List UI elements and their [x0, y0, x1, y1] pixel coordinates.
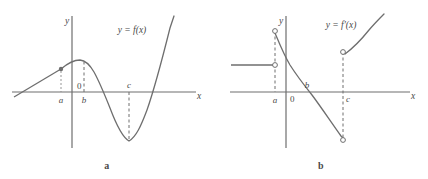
panel-a: y x 0 a b c y = f(x) a — [0, 0, 214, 179]
open-circle-c-upper — [341, 50, 346, 55]
tick-label-a: a — [273, 95, 278, 105]
tick-label-c: c — [127, 80, 131, 90]
open-circle-c-lower — [341, 138, 346, 143]
tangent-line-at-a — [14, 69, 61, 97]
x-axis-label: x — [410, 91, 416, 101]
panel-a-plot: y x 0 a b c y = f(x) — [0, 0, 214, 179]
y-axis-label: y — [64, 16, 70, 26]
curve-label-f-prime: y = f'(x) — [325, 20, 357, 31]
x-axis-label: x — [196, 91, 202, 101]
tick-label-a: a — [59, 95, 64, 105]
curve-label-f: y = f(x) — [117, 25, 147, 36]
y-axis-label: y — [278, 16, 284, 26]
figure-root: y x 0 a b c y = f(x) a — [0, 0, 428, 179]
panel-b-caption: b — [214, 160, 428, 171]
panel-a-caption: a — [0, 160, 214, 171]
tick-label-c: c — [346, 94, 350, 104]
tangency-point-marker — [59, 67, 63, 71]
tick-label-b: b — [305, 80, 310, 90]
origin-label: 0 — [290, 94, 295, 104]
tick-label-b: b — [82, 95, 87, 105]
panel-b: y x 0 a b c y = f'(x) b — [214, 0, 428, 179]
origin-label: 0 — [77, 81, 82, 91]
open-circle-a-upper — [273, 29, 278, 34]
open-circle-a-lower — [273, 63, 278, 68]
panel-b-plot: y x 0 a b c y = f'(x) — [214, 0, 428, 179]
